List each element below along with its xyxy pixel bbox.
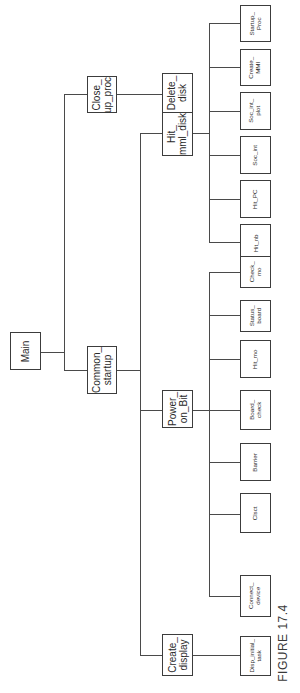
node-label: Power_ on_Bit (167, 392, 189, 426)
figure-caption: FIGURE 17.4 (270, 600, 296, 686)
node-barrier: Barrier (240, 443, 271, 481)
node-close-up-proc: Close_ up_proc (87, 76, 117, 113)
node-label: Create_ MMI (249, 56, 263, 78)
node-label: Disp_initial_ task (249, 639, 263, 672)
node-create-display: Create_ display (162, 634, 193, 676)
node-label: Startup_ Proc (249, 12, 263, 35)
node-label: Status_ board (249, 306, 263, 327)
caption-text: FIGURE 17.4 (276, 604, 290, 682)
node-label: Close_ up_proc (91, 76, 113, 112)
node-common-startup: Common_ startup (87, 346, 117, 394)
node-label: Clsct (252, 506, 259, 520)
node-check-mo: Check_ mo (240, 256, 271, 288)
node-label: Barrier (252, 453, 259, 472)
node-label: Soc_int_ plot (249, 99, 263, 123)
node-soc-int: Soc_int (240, 136, 271, 174)
node-clsct: Clsct (240, 493, 271, 533)
node-startup-proc: Startup_ Proc (240, 5, 271, 42)
node-label: Create_ display (167, 637, 189, 673)
node-create-mmi: Create_ MMI (240, 49, 271, 86)
node-connect-device: Connect_ device (240, 575, 271, 617)
node-main: Main (10, 332, 41, 370)
node-label: Soc_int (252, 145, 259, 166)
node-label: Hit_ mml_disk (167, 113, 189, 155)
node-label: Delete_ disk (167, 76, 189, 110)
node-status-board: Status_ board (240, 300, 271, 332)
node-delete-disk: Delete_ disk (162, 73, 193, 113)
node-hit-mo: Hit_mo (240, 340, 271, 378)
node-label: Hit_mo (252, 349, 259, 369)
node-label: Connect_ device (249, 583, 263, 610)
node-label: Check_ mo (249, 262, 263, 283)
node-label: Main (20, 340, 31, 362)
node-label: Common_ startup (91, 347, 113, 393)
node-label: Hit_PC (252, 189, 259, 209)
node-soc-int-plot: Soc_int_ plot (240, 92, 271, 130)
node-board-check: Board_ check (240, 390, 271, 430)
node-hit-mml-disk: Hit_ mml_disk (162, 112, 193, 156)
node-disp-initial-task: Disp_initial_ task (240, 636, 271, 676)
node-power-on-bit: Power_ on_Bit (162, 390, 193, 428)
node-label: Board_ check (249, 400, 263, 420)
node-hit-pc: Hit_PC (240, 180, 271, 218)
node-label: Hit_nb (252, 234, 259, 252)
